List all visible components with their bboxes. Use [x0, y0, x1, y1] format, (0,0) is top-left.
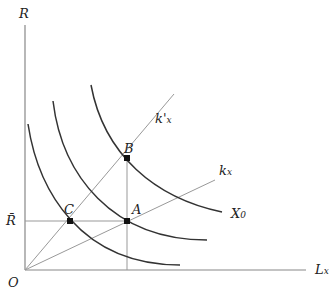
- point-a-label: A: [132, 203, 141, 216]
- isoquant-x0-label: X0: [231, 207, 246, 220]
- origin-label: O: [8, 276, 19, 289]
- r-bar-label: R̄: [6, 214, 16, 227]
- point-b-label: B: [124, 142, 134, 155]
- point-a: [124, 218, 130, 224]
- ray-k-label: kx: [219, 164, 232, 177]
- ray-k-prime-label: k'x: [155, 112, 172, 125]
- isoquant-diagram: [0, 0, 334, 291]
- point-c: [67, 218, 73, 224]
- isoquant-x0: [91, 85, 222, 212]
- x-axis-label: Lx: [315, 263, 329, 276]
- point-c-label: C: [64, 203, 74, 216]
- ray-k-x: [25, 180, 215, 270]
- y-axis-label: R: [19, 7, 29, 20]
- isoquant-low: [28, 124, 180, 265]
